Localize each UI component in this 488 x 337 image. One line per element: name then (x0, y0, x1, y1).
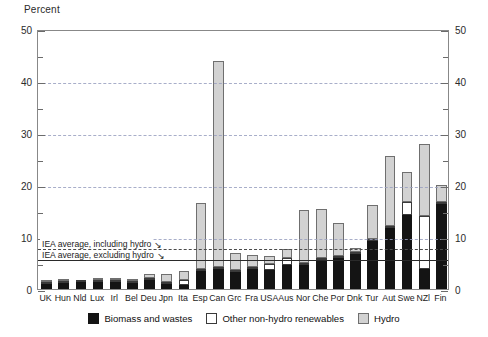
bar-segment-biomass (333, 258, 344, 289)
x-tick-label-por: Por (329, 293, 346, 303)
x-tick-label-nzl: NZl (415, 293, 432, 303)
x-tick-label-swe: Swe (398, 293, 415, 303)
bar-segment-biomass (247, 269, 258, 289)
x-tick-label-aus: Aus (277, 293, 294, 303)
tick-right-20 (441, 187, 448, 188)
tick-left-50 (38, 31, 45, 32)
bar-segment-biomass (316, 260, 327, 289)
legend-item-hydro[interactable]: Hydro (358, 313, 400, 324)
bar-segment-biomass (385, 228, 396, 289)
bar-segment-hydro (367, 205, 378, 239)
legend-swatch-other (206, 313, 217, 324)
y-tick-label-left-10: 10 (12, 233, 32, 244)
y-tick-label-left-20: 20 (12, 181, 32, 192)
y-tick-label-right-30: 30 (455, 129, 477, 140)
x-tick-label-grc: Grc (226, 293, 243, 303)
minor-tick-left-45 (38, 57, 43, 58)
minor-tick-right-5 (443, 265, 448, 266)
bar-segment-biomass (367, 241, 378, 289)
bar-segment-biomass (196, 271, 207, 289)
bar-lux[interactable] (93, 278, 104, 289)
bar-swe[interactable] (402, 172, 413, 289)
bar-segment-biomass (282, 265, 293, 289)
legend-item-other[interactable]: Other non-hydro renewables (206, 313, 344, 324)
bar-segment-biomass (350, 254, 361, 289)
x-tick-label-uk: UK (37, 293, 54, 303)
bar-segment-biomass (213, 269, 224, 289)
renewables-share-chart: Percent Biomass and wastesOther non-hydr… (0, 0, 488, 337)
bar-segment-biomass (144, 280, 155, 289)
x-tick-label-irl: Irl (106, 293, 123, 303)
legend-label-other: Other non-hydro renewables (222, 313, 344, 324)
x-tick-label-fin: Fin (432, 293, 449, 303)
x-tick-label-che: Che (312, 293, 329, 303)
bar-segment-biomass (402, 215, 413, 289)
x-tick-label-hun: Hun (54, 293, 71, 303)
bar-jpn[interactable] (161, 274, 172, 290)
minor-tick-left-15 (38, 213, 43, 214)
bar-dnk[interactable] (350, 248, 361, 289)
bar-irl[interactable] (110, 278, 121, 289)
bar-aut[interactable] (385, 156, 396, 289)
bar-segment-biomass (230, 272, 241, 289)
bar-deu[interactable] (144, 274, 155, 289)
bar-segment-biomass (299, 265, 310, 289)
bar-segment-hydro (299, 210, 310, 263)
minor-tick-right-25 (443, 161, 448, 162)
x-tick-label-fra: Fra (243, 293, 260, 303)
x-tick-label-bel: Bel (123, 293, 140, 303)
tick-left-0 (38, 291, 45, 292)
bar-nzl[interactable] (419, 144, 430, 289)
tick-left-30 (38, 135, 45, 136)
y-tick-label-right-40: 40 (455, 77, 477, 88)
bar-segment-hydro (179, 271, 190, 279)
bar-segment-biomass (419, 269, 430, 289)
y-tick-label-right-20: 20 (455, 181, 477, 192)
y-tick-label-left-0: 0 (12, 285, 32, 296)
legend-label-hydro: Hydro (374, 313, 400, 324)
gridline-40 (38, 83, 448, 84)
bar-ita[interactable] (179, 271, 190, 289)
x-tick-label-jpn: Jpn (157, 293, 174, 303)
x-tick-label-ita: Ita (174, 293, 191, 303)
minor-tick-right-15 (443, 213, 448, 214)
bar-tur[interactable] (367, 205, 378, 289)
bar-segment-biomass (264, 270, 275, 289)
bar-esp[interactable] (196, 203, 207, 289)
bar-segment-biomass (76, 282, 87, 289)
bar-segment-other (282, 258, 293, 265)
bar-segment-hydro (196, 203, 207, 270)
bar-nld[interactable] (76, 280, 87, 289)
bar-segment-biomass (179, 285, 190, 289)
bar-segment-biomass (110, 282, 121, 289)
bar-segment-other (402, 202, 413, 214)
bar-segment-biomass (93, 282, 104, 289)
y-axis-title: Percent (24, 4, 60, 15)
tick-left-40 (38, 83, 45, 84)
bar-uk[interactable] (41, 280, 52, 289)
chart-legend: Biomass and wastesOther non-hydro renewa… (0, 313, 488, 324)
y-tick-label-left-40: 40 (12, 77, 32, 88)
bar-segment-hydro (230, 253, 241, 270)
average-pointer-arrow-icon: ↘ (154, 241, 162, 250)
legend-item-biomass[interactable]: Biomass and wastes (88, 313, 192, 324)
bar-segment-biomass (436, 204, 447, 289)
minor-tick-left-35 (38, 109, 43, 110)
tick-right-10 (441, 239, 448, 240)
bar-aus[interactable] (282, 249, 293, 289)
bar-grc[interactable] (230, 253, 241, 289)
bar-segment-biomass (58, 283, 69, 289)
y-tick-label-right-10: 10 (455, 233, 477, 244)
bar-segment-hydro (385, 156, 396, 226)
tick-right-40 (441, 83, 448, 84)
bar-por[interactable] (333, 223, 344, 289)
gridline-30 (38, 135, 448, 136)
bar-bel[interactable] (127, 279, 138, 289)
minor-tick-left-5 (38, 265, 43, 266)
bar-can[interactable] (213, 61, 224, 289)
bar-hun[interactable] (58, 279, 69, 289)
average-label-excluding-hydro: IEA average, excluding hydro (40, 250, 156, 260)
minor-tick-right-35 (443, 109, 448, 110)
bar-fin[interactable] (436, 185, 447, 289)
bar-segment-biomass (41, 284, 52, 289)
